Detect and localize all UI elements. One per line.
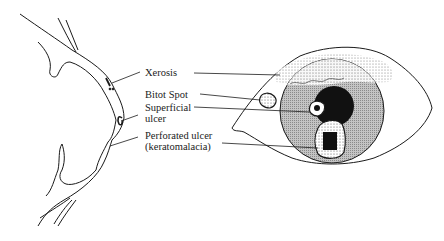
sclera-inner (38, 42, 116, 196)
label-superficial-ulcer-line2: ulcer (145, 113, 191, 124)
xerosis-leader-right (194, 73, 280, 75)
label-bitot-spot: Bitot Spot (145, 89, 188, 100)
label-perforated-ulcer-line2: (keratomalacia) (145, 141, 212, 152)
label-xerosis: Xerosis (145, 67, 177, 78)
eye-side-profile (20, 14, 124, 226)
superficial-ulcer-notch (118, 117, 122, 125)
lower-lid-line-2 (54, 200, 72, 224)
bitot-spot (260, 93, 276, 108)
xerosis-dot-2 (112, 88, 114, 90)
eye-diagram-svg (0, 0, 444, 241)
xerosis-leader-left (112, 72, 140, 83)
label-perforated-ulcer: Perforated ulcer (keratomalacia) (145, 130, 212, 152)
label-superficial-ulcer: Superficial ulcer (145, 102, 191, 124)
label-bitot-spot-text: Bitot Spot (145, 89, 188, 100)
label-xerosis-text: Xerosis (145, 67, 177, 78)
leader-lines-left (110, 72, 140, 146)
bitot-spot-leader (200, 94, 260, 100)
label-superficial-ulcer-line1: Superficial (145, 102, 191, 113)
superficial-ulcer-center (314, 105, 320, 111)
diagram-canvas: Xerosis Bitot Spot Superficial ulcer Per… (0, 0, 444, 241)
upper-lid-outer-line (20, 14, 72, 50)
label-perforated-ulcer-line1: Perforated ulcer (145, 130, 212, 141)
eye-front-view (232, 47, 432, 164)
xerosis-dot-1 (109, 88, 111, 90)
perforated-ulcer-core (323, 132, 337, 150)
superficial-ulcer-leader-left (124, 115, 138, 120)
